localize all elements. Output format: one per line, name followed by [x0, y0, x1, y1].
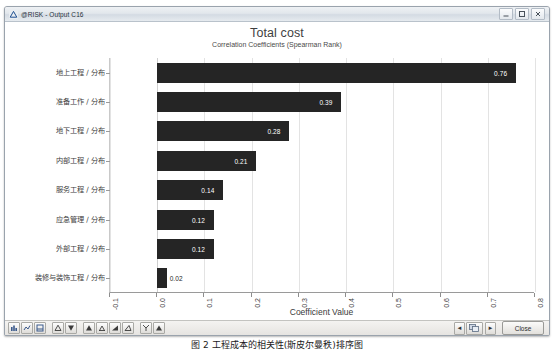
bar-row: 0.12: [110, 210, 534, 230]
bar[interactable]: [157, 92, 341, 112]
bar-value-label: 0.76: [494, 69, 507, 76]
x-tick-mark: [298, 293, 299, 297]
bar-row: 0.02: [110, 268, 534, 288]
chart-type-2-icon[interactable]: [21, 322, 33, 334]
chart-title: Total cost: [5, 26, 549, 40]
bar-row: 0.76: [110, 63, 534, 83]
axis-icon[interactable]: [140, 322, 152, 334]
x-tick-mark: [156, 293, 157, 297]
y-axis-label: 地下工程 / 分布: [5, 126, 105, 136]
bar-value-label: 0.28: [267, 128, 280, 135]
percentile-icon[interactable]: [96, 322, 108, 334]
y-tick-mark: [106, 278, 110, 279]
plot-area: 0.760.390.280.210.140.120.120.02: [109, 58, 534, 293]
bar-value-label: 0.12: [192, 216, 205, 223]
y-axis-labels: 地上工程 / 分布准备工作 / 分布地下工程 / 分布内部工程 / 分布服务工程…: [5, 58, 105, 293]
y-tick-mark: [106, 102, 110, 103]
bar-row: 0.12: [110, 239, 534, 259]
close-button-titlebar[interactable]: [531, 8, 545, 20]
y-tick-mark: [106, 220, 110, 221]
x-tick-label: 0.8: [537, 298, 544, 308]
y-axis-label: 应急管理 / 分布: [5, 215, 105, 225]
format-icon[interactable]: [122, 322, 134, 334]
scale-icon[interactable]: [83, 322, 95, 334]
x-tick-mark: [487, 293, 488, 297]
window-title-bar[interactable]: @RISK - Output C16: [5, 7, 549, 22]
bar[interactable]: [157, 63, 516, 83]
y-axis-label: 服务工程 / 分布: [5, 185, 105, 195]
x-tick-mark: [392, 293, 393, 297]
bar-row: 0.28: [110, 121, 534, 141]
y-axis-label: 准备工作 / 分布: [5, 97, 105, 107]
bar-value-label: 0.12: [192, 245, 205, 252]
bar-value-label: 0.02: [170, 275, 183, 282]
y-tick-mark: [106, 131, 110, 132]
bar[interactable]: [157, 239, 214, 259]
x-tick-mark: [345, 293, 346, 297]
chart-subtitle: Correlation Coefficients (Spearman Rank): [5, 41, 549, 48]
chart-type-3-icon[interactable]: [34, 322, 46, 334]
bar-value-label: 0.14: [201, 187, 214, 194]
bar-value-label: 0.39: [319, 99, 332, 106]
bottom-toolbar: ◄ ► Close: [5, 320, 549, 335]
bar[interactable]: [157, 268, 166, 288]
y-tick-mark: [106, 161, 110, 162]
window-title: @RISK - Output C16: [21, 10, 84, 19]
x-tick-mark: [109, 293, 110, 297]
y-axis-label: 外部工程 / 分布: [5, 244, 105, 254]
bar-value-label: 0.21: [234, 157, 247, 164]
maximize-button[interactable]: [515, 8, 529, 20]
risk-output-window: @RISK - Output C16 Total cost Correlatio…: [4, 6, 550, 336]
risk-logo-icon: [9, 10, 18, 19]
x-tick-mark: [440, 293, 441, 297]
x-tick-mark: [203, 293, 204, 297]
prev-chart-button[interactable]: ◄: [454, 322, 465, 335]
y-tick-mark: [106, 190, 110, 191]
next-chart-button[interactable]: ►: [485, 322, 496, 335]
y-axis-label: 地上工程 / 分布: [5, 68, 105, 78]
delimiter-icon[interactable]: [109, 322, 121, 334]
chart-canvas: Total cost Correlation Coefficients (Spe…: [5, 22, 549, 321]
minimize-button[interactable]: [499, 8, 513, 20]
y-axis-label: 内部工程 / 分布: [5, 156, 105, 166]
chart-type-1-icon[interactable]: [8, 322, 20, 334]
figure-caption: 图 2 工程成本的相关性(斯皮尔曼秩)排序图: [0, 338, 554, 350]
export-icon[interactable]: [153, 322, 165, 334]
bar[interactable]: [157, 210, 214, 230]
bar-row: 0.39: [110, 92, 534, 112]
gridline: [535, 58, 536, 292]
close-button[interactable]: Close: [502, 321, 544, 335]
x-tick-mark: [534, 293, 535, 297]
sort-ascending-icon[interactable]: [52, 322, 64, 334]
y-axis-label: 装修与装饰工程 / 分布: [5, 273, 105, 283]
y-tick-mark: [106, 73, 110, 74]
bar-row: 0.14: [110, 180, 534, 200]
bar-row: 0.21: [110, 151, 534, 171]
x-tick-mark: [251, 293, 252, 297]
window-controls: [499, 8, 547, 20]
sort-descending-icon[interactable]: [65, 322, 77, 334]
window-list-icon[interactable]: [466, 322, 483, 335]
x-axis-title: Coefficient Value: [109, 307, 534, 317]
bar-series: 0.760.390.280.210.140.120.120.02: [110, 58, 534, 292]
y-tick-mark: [106, 249, 110, 250]
